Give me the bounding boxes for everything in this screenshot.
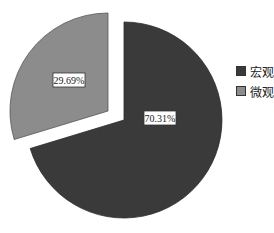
legend-label-macro: 宏观 bbox=[250, 63, 274, 80]
legend-swatch-macro bbox=[236, 66, 246, 76]
legend: 宏观 微观 bbox=[236, 61, 274, 101]
data-label-macro: 70.31% bbox=[144, 111, 176, 125]
svg-text:70.31%: 70.31% bbox=[145, 113, 176, 124]
legend-item-macro: 宏观 bbox=[236, 61, 274, 81]
legend-item-micro: 微观 bbox=[236, 81, 274, 101]
data-label-micro: 29.69% bbox=[53, 73, 85, 87]
legend-swatch-micro bbox=[236, 86, 246, 96]
svg-text:29.69%: 29.69% bbox=[54, 75, 85, 86]
pie-chart: 29.69% 70.31% bbox=[0, 0, 274, 233]
legend-label-micro: 微观 bbox=[250, 83, 274, 100]
